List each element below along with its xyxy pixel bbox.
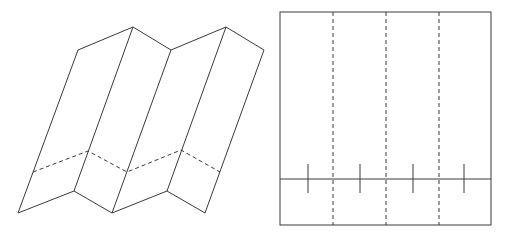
folded-crease-edge xyxy=(167,27,226,191)
folded-top-edge xyxy=(78,27,264,50)
folded-crease-edge xyxy=(18,50,78,213)
diagram-canvas xyxy=(0,0,506,236)
folded-crease-edge xyxy=(112,50,171,213)
flat-strip-figure xyxy=(280,12,491,225)
folded-crease-edge xyxy=(205,50,264,213)
folded-bottom-edge xyxy=(18,191,205,213)
folded-dashed-fold-line xyxy=(33,150,220,172)
folded-crease-edge xyxy=(74,27,133,191)
folded-strip-figure xyxy=(18,27,264,213)
